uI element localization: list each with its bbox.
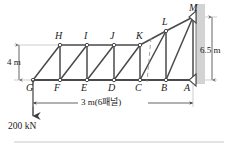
wall-support-surface (196, 4, 205, 84)
load-label: 200 kN (8, 122, 36, 132)
node-label-E: E (81, 83, 87, 93)
node-label-H: H (55, 31, 62, 41)
top-chord (60, 17, 193, 45)
node-label-F: F (54, 83, 60, 93)
truss-figure: G F E D C B A H I J K L M 4 m 6.5 m 3 m(… (0, 0, 237, 147)
dimension-label-right-height: 6.5 m (200, 46, 221, 55)
node-label-A: A (184, 83, 190, 93)
dimension-label-left-height: 4 m (7, 58, 21, 67)
dimension-label-span: 3 m(6패널) (81, 98, 121, 107)
diagonal-web-members (33, 17, 193, 80)
node-label-D: D (108, 83, 115, 93)
node-label-J: J (110, 31, 114, 41)
node-label-M: M (189, 3, 197, 13)
node-label-G: G (26, 83, 33, 93)
node-label-B: B (161, 83, 167, 93)
node-label-C: C (135, 83, 142, 93)
node-label-L: L (162, 17, 168, 27)
node-label-K: K (136, 31, 143, 41)
node-label-I: I (84, 31, 87, 41)
